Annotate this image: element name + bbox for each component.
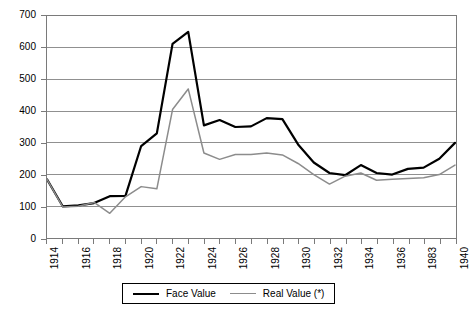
- x-tick-mark: [78, 239, 79, 244]
- x-tick-label: 1920: [145, 247, 155, 269]
- x-tick-mark: [298, 239, 299, 244]
- x-tick-mark: [141, 239, 142, 244]
- y-tick-label: 0: [30, 234, 36, 244]
- line-swatch-black: [133, 293, 159, 295]
- x-tick-mark: [283, 239, 284, 244]
- legend-entry: Real Value (*): [230, 288, 325, 299]
- x-tick-mark: [440, 239, 441, 244]
- y-tick-label: 500: [19, 74, 36, 84]
- x-tick-label: 1922: [176, 247, 186, 269]
- line-swatch-gray: [230, 293, 256, 294]
- y-tick-label: 600: [19, 42, 36, 52]
- x-tick-mark: [377, 239, 378, 244]
- x-tick-mark: [93, 239, 94, 244]
- x-tick-mark: [188, 239, 189, 244]
- y-tick-label: 200: [19, 170, 36, 180]
- x-tick-label: 1926: [239, 247, 249, 269]
- x-tick-mark: [393, 239, 394, 244]
- x-tick-label: 1928: [271, 247, 281, 269]
- legend-label: Real Value (*): [263, 288, 325, 299]
- x-tick-label: 1936: [397, 247, 407, 269]
- x-tick-mark: [204, 239, 205, 244]
- x-tick-label: 1914: [50, 247, 60, 269]
- y-axis: 0100200300400500600700: [0, 0, 42, 239]
- x-tick-mark: [314, 239, 315, 244]
- legend-label: Face Value: [166, 288, 216, 299]
- x-tick-mark: [267, 239, 268, 244]
- y-tick-label: 400: [19, 106, 36, 116]
- x-tick-mark: [235, 239, 236, 244]
- x-tick-mark: [361, 239, 362, 244]
- x-tick-mark: [109, 239, 110, 244]
- x-tick-mark: [125, 239, 126, 244]
- x-tick-label: 1924: [208, 247, 218, 269]
- plot-area: [46, 15, 457, 239]
- x-tick-label: 1918: [113, 247, 123, 269]
- x-tick-mark: [219, 239, 220, 244]
- x-tick-mark: [251, 239, 252, 244]
- x-tick-mark: [330, 239, 331, 244]
- x-tick-label: 1940: [460, 247, 470, 269]
- x-tick-label: 1916: [82, 247, 92, 269]
- x-tick-mark: [62, 239, 63, 244]
- x-tick-mark: [46, 239, 47, 244]
- x-tick-label: 1934: [365, 247, 375, 269]
- y-tick-label: 300: [19, 138, 36, 148]
- x-tick-label: 1930: [302, 247, 312, 269]
- data-series-layer: [47, 16, 456, 238]
- x-tick-mark: [346, 239, 347, 244]
- y-tick-label: 700: [19, 10, 36, 20]
- chart-legend: Face ValueReal Value (*): [122, 283, 335, 304]
- series-line-face-value: [47, 32, 455, 206]
- x-tick-mark: [409, 239, 410, 244]
- x-tick-mark: [156, 239, 157, 244]
- series-line-real-value: [47, 89, 455, 213]
- x-tick-mark: [172, 239, 173, 244]
- x-tick-mark: [456, 239, 457, 244]
- x-tick-label: 1983: [428, 247, 438, 269]
- legend-entry: Face Value: [133, 288, 216, 299]
- y-tick-label: 100: [19, 202, 36, 212]
- x-tick-mark: [424, 239, 425, 244]
- x-tick-label: 1932: [334, 247, 344, 269]
